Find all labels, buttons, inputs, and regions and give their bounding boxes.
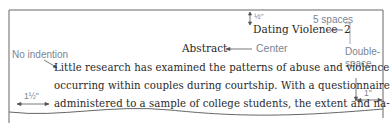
left-margin-label: 1½" [24,91,39,101]
center-label: Center [256,42,288,54]
body-line-2: occurring within couples during courtshi… [54,80,390,91]
abstract-heading: Abstract [182,42,227,54]
no-indention-label: No indention [12,49,68,60]
page-number: 2 [344,23,351,35]
double-space-label-1: Double- [345,46,380,57]
body-line-1: Little research has examined the pattern… [54,62,389,73]
top-margin-label: ½" [254,12,264,21]
running-head: Dating Violence [253,23,338,35]
body-line-3: administered to a sample of college stud… [54,98,390,109]
top-margin-arrow [249,12,252,25]
